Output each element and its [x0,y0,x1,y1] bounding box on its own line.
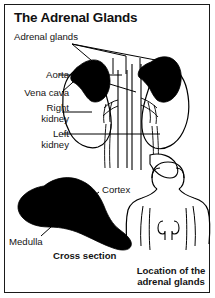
adrenal-glands-figure: The Adrenal Glands [0,0,215,298]
caption-body-location: Location of the adrenal glands [133,266,209,287]
figure-title: The Adrenal Glands [14,10,137,25]
label-left-kidney-line1: Left [13,129,69,140]
caption-body-location-line1: Location of the [133,266,209,277]
label-adrenal-glands: Adrenal glands [14,32,78,43]
label-vena-cava: Vena cava [7,88,69,99]
label-left-kidney-line2: kidney [13,140,69,151]
caption-body-location-line2: adrenal glands [133,277,209,288]
label-right-kidney-line2: kidney [13,114,69,125]
label-aorta: Aorta [23,70,69,81]
label-left-kidney: Left kidney [13,129,69,150]
label-cortex: Cortex [102,185,130,196]
caption-cross-section: Cross section [53,251,116,262]
label-right-kidney-line1: Right [13,103,69,114]
label-medulla: Medulla [9,237,43,248]
label-right-kidney: Right kidney [13,103,69,124]
